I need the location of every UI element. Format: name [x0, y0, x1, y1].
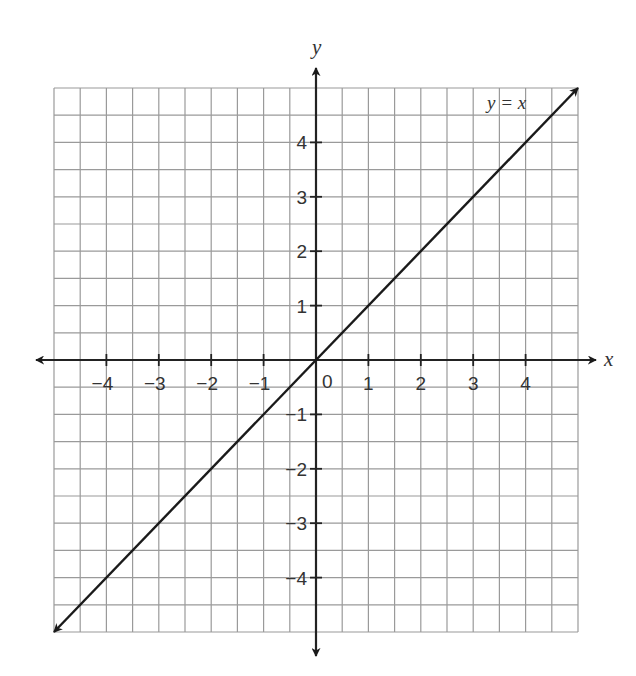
y-tick-label: −1 [285, 404, 307, 425]
x-tick-label: 3 [468, 373, 479, 394]
y-axis-label: y [310, 35, 322, 59]
y-tick-label: 2 [296, 241, 307, 262]
x-tick-label: −3 [144, 373, 166, 394]
y-tick-label: 1 [296, 296, 307, 317]
x-tick-label: 2 [416, 373, 427, 394]
y-tick-label: −3 [285, 513, 307, 534]
origin-label: 0 [322, 371, 333, 392]
coordinate-plane: −4−3−2−11234−4−3−2−11234 xy0y = x [0, 0, 636, 676]
y-tick-label: −4 [285, 568, 307, 589]
x-tick-label: −2 [196, 373, 218, 394]
line-label: y = x [485, 92, 527, 113]
x-tick-label: 4 [520, 373, 531, 394]
x-tick-label: −4 [92, 373, 114, 394]
y-tick-label: 3 [296, 187, 307, 208]
x-tick-label: −1 [249, 373, 271, 394]
y-tick-label: 4 [296, 132, 307, 153]
x-tick-label: 1 [363, 373, 374, 394]
x-axis-label: x [603, 347, 614, 371]
y-tick-label: −2 [285, 459, 307, 480]
